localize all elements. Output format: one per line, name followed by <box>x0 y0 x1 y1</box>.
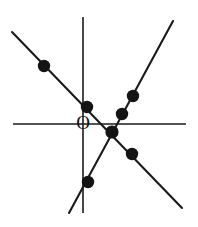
point-upper-right-high <box>127 90 139 102</box>
point-on-y-axis <box>81 101 93 113</box>
geometry-canvas: O <box>0 0 198 227</box>
descending-line <box>12 32 182 208</box>
point-lower-right <box>126 148 138 160</box>
origin-label: O <box>76 112 90 133</box>
point-lower-left <box>82 176 94 188</box>
point-intersection <box>105 125 118 138</box>
point-upper-left <box>38 60 50 72</box>
geometry-figure: O <box>0 0 198 227</box>
point-upper-right-low <box>116 108 128 120</box>
